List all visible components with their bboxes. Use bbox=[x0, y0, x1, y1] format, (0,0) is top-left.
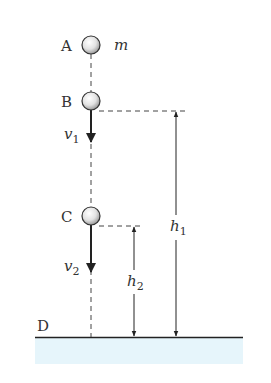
velocity-subscript-v1: 1 bbox=[72, 133, 79, 146]
height-label-h2: h2 bbox=[127, 272, 144, 293]
height-symbol-h1: h bbox=[170, 217, 180, 235]
point-label-a: A bbox=[60, 37, 72, 55]
ball-a bbox=[82, 36, 100, 54]
height-symbol-h2: h bbox=[127, 272, 137, 290]
ball-b bbox=[82, 92, 100, 110]
velocity-label-v1: v1 bbox=[64, 125, 79, 146]
point-label-b: B bbox=[61, 93, 72, 111]
ground-area bbox=[35, 338, 243, 364]
velocity-subscript-v2: 2 bbox=[72, 265, 79, 278]
point-label-c: C bbox=[61, 208, 72, 226]
height-subscript-h2: 2 bbox=[137, 280, 144, 293]
ball-c bbox=[82, 207, 100, 225]
height-subscript-h1: 1 bbox=[180, 225, 187, 238]
point-label-d: D bbox=[37, 317, 49, 335]
free-fall-diagram: A B C D m v1 v2 h1 h2 bbox=[0, 0, 271, 383]
mass-label: m bbox=[114, 36, 128, 54]
height-label-h1: h1 bbox=[170, 217, 187, 238]
velocity-label-v2: v2 bbox=[64, 257, 79, 278]
